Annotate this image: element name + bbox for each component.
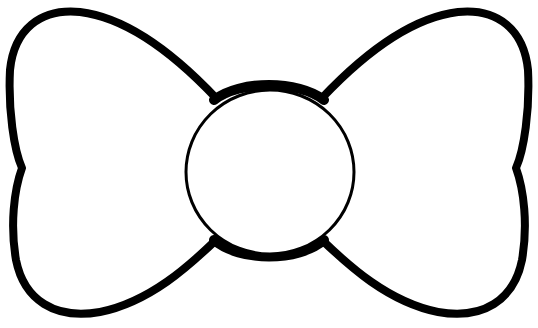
center-knot — [186, 90, 354, 254]
bow-tie-illustration — [0, 0, 538, 328]
